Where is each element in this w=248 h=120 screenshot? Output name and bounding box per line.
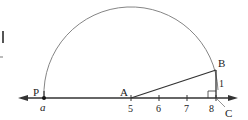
right-arrowhead-icon — [228, 95, 238, 101]
segment-AB — [131, 70, 216, 98]
label-C: C — [225, 107, 232, 119]
cropped-artifact — [2, 31, 4, 43]
tick-label-7: 7 — [184, 103, 189, 114]
right-angle-marker — [208, 91, 216, 98]
label-B: B — [218, 57, 225, 69]
label-P: P — [33, 86, 39, 98]
tick-label-5: 5 — [128, 103, 133, 114]
tick-label-6: 6 — [156, 103, 161, 114]
left-arrowhead-icon — [18, 95, 28, 101]
pointer-C — [217, 99, 225, 107]
label-a: a — [40, 101, 46, 113]
number-line-diagram: P a A B C 1 5 6 7 8 — [0, 0, 248, 120]
construction-arc — [44, 7, 218, 98]
label-A: A — [120, 86, 128, 98]
label-BC-length: 1 — [219, 78, 224, 89]
tick-label-8: 8 — [209, 103, 214, 114]
cropped-artifact — [0, 56, 3, 58]
